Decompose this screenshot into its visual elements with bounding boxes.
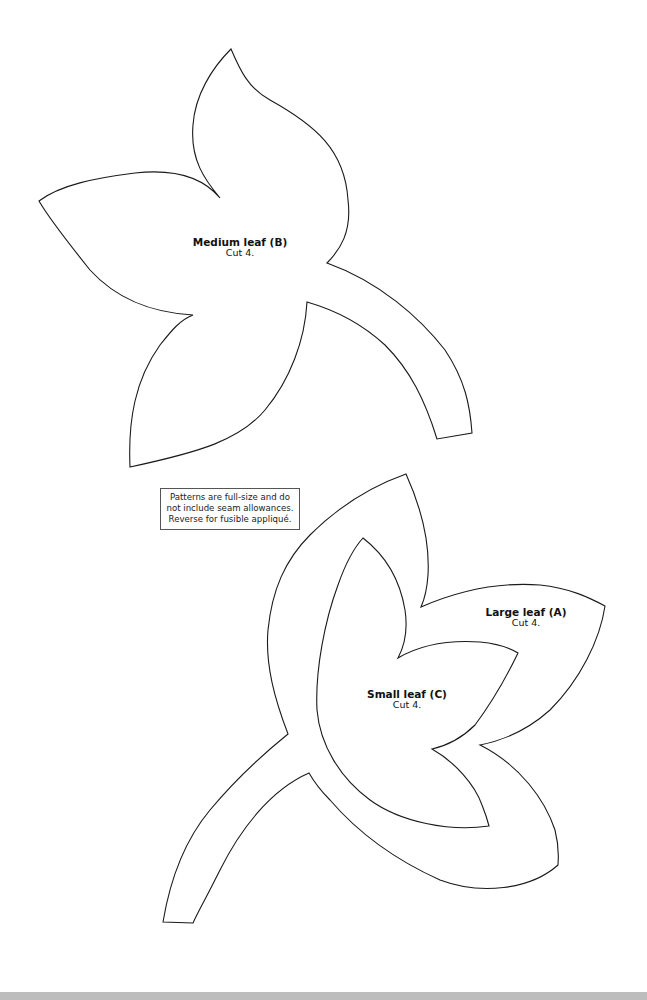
pattern-note-box: Patterns are full-size and do not includ… [160,488,300,530]
note-line: Patterns are full-size and do [163,492,297,503]
small-leaf-label: Small leaf (C) Cut 4. [352,688,462,711]
note-line: Reverse for fusible appliqué. [163,514,297,525]
large-leaf-label: Large leaf (A) Cut 4. [466,606,586,629]
medium-leaf-label: Medium leaf (B) Cut 4. [182,236,298,259]
pattern-page: Medium leaf (B) Cut 4. Large leaf (A) Cu… [0,0,647,1000]
note-line: not include seam allowances. [163,503,297,514]
small-leaf-outline [317,538,518,828]
medium-leaf-cut-count: Cut 4. [182,248,298,259]
large-leaf-cut-count: Cut 4. [466,618,586,629]
small-leaf-cut-count: Cut 4. [352,700,462,711]
leaf-outlines [0,0,647,1000]
page-bottom-bar [0,992,647,1000]
